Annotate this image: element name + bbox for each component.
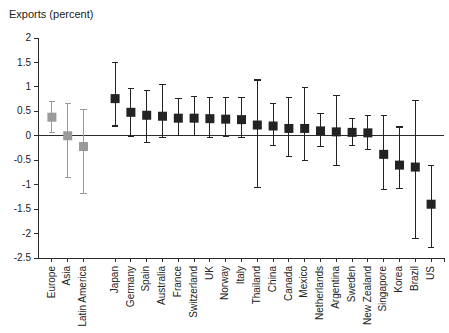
point-marker (174, 114, 183, 123)
data-point-argentina (332, 96, 341, 165)
data-point-latin-america (79, 109, 88, 193)
point-marker (427, 200, 436, 209)
data-point-china (269, 104, 278, 146)
data-point-netherlands (316, 113, 325, 146)
data-point-germany (126, 89, 135, 137)
data-point-sweden (348, 118, 357, 145)
x-axis-tick-label: Spain (140, 266, 151, 292)
point-marker (47, 113, 56, 122)
x-axis-tick-label: Argentina (330, 266, 341, 309)
y-axis-tick-label: 2 (25, 32, 31, 43)
y-axis-tick-label: 0.5 (17, 105, 31, 116)
x-axis-tick-label: Asia (61, 266, 72, 286)
y-axis-tick-label: -1.5 (14, 203, 32, 214)
y-axis-tick-label: -0.5 (14, 154, 32, 165)
point-marker (142, 111, 151, 120)
y-axis-tick-label: 1.5 (17, 57, 31, 68)
point-marker (237, 115, 246, 124)
x-axis-tick-label: Canada (283, 266, 294, 301)
y-axis-tick-label: 0 (25, 130, 31, 141)
x-axis-tick-label: Italy (235, 266, 246, 284)
point-marker (79, 142, 88, 151)
point-marker (126, 108, 135, 117)
point-marker (221, 115, 230, 124)
data-point-italy (237, 98, 246, 138)
x-axis-tick-label: Korea (393, 266, 404, 293)
y-axis-tick-label: 1 (25, 81, 31, 92)
point-marker (284, 124, 293, 133)
x-axis-tick-label: Germany (125, 266, 136, 307)
y-axis-tick-label: -1 (22, 179, 31, 190)
data-point-singapore (379, 115, 388, 189)
data-point-canada (284, 98, 293, 157)
point-marker (300, 124, 309, 133)
x-axis-tick-label: Sweden (346, 266, 357, 302)
x-axis-tick-label: Netherlands (314, 266, 325, 320)
x-axis-tick-label: Thailand (251, 266, 262, 304)
x-axis-tick-label: China (267, 266, 278, 293)
point-marker (395, 161, 404, 170)
point-marker (411, 163, 420, 172)
x-axis-tick-label: Norway (219, 266, 230, 300)
data-point-brazil (411, 101, 420, 239)
x-axis-tick-label: New Zealand (362, 266, 373, 325)
x-axis-tick-label: Singapore (377, 266, 388, 312)
data-point-uk (205, 98, 214, 138)
x-axis-tick-label: Australia (156, 266, 167, 305)
point-marker (348, 128, 357, 137)
data-point-mexico (300, 88, 309, 160)
point-marker (253, 121, 262, 130)
data-point-new-zealand (363, 115, 372, 149)
x-axis-tick-label: UK (204, 266, 215, 280)
plot-area: 21.510.50-0.5-1-1.5-2-2.5EuropeAsiaLatin… (0, 0, 449, 333)
data-point-asia (63, 104, 72, 178)
page-title: Exports (percent) (9, 8, 93, 21)
y-axis-tick-label: -2.5 (14, 252, 32, 263)
data-point-switzerland (190, 97, 199, 136)
point-marker (205, 114, 214, 123)
point-marker (111, 94, 120, 103)
x-axis-tick-label: France (172, 266, 183, 298)
data-point-thailand (253, 80, 262, 188)
x-axis-tick-label: Latin America (77, 266, 88, 327)
x-axis-tick-label: Mexico (298, 266, 309, 298)
point-marker (332, 127, 341, 136)
y-axis-tick-label: -2 (22, 228, 31, 239)
data-point-japan (111, 62, 120, 126)
data-point-spain (142, 91, 151, 143)
point-marker (63, 131, 72, 140)
point-marker (158, 112, 167, 121)
data-point-norway (221, 98, 230, 137)
x-axis-tick-label: Brazil (409, 266, 420, 291)
exports-confidence-interval-chart: Exports (percent) 21.510.50-0.5-1-1.5-2-… (0, 0, 449, 333)
point-marker (316, 126, 325, 135)
x-axis-tick-label: Switzerland (188, 266, 199, 318)
x-axis-tick-label: Europe (46, 266, 57, 299)
x-axis-tick-label: US (425, 266, 436, 280)
point-marker (379, 150, 388, 159)
data-point-australia (158, 85, 167, 138)
point-marker (190, 114, 199, 123)
data-point-us (427, 165, 436, 247)
data-point-france (174, 99, 183, 136)
x-axis-tick-label: Japan (109, 266, 120, 293)
point-marker (269, 122, 278, 131)
point-marker (363, 128, 372, 137)
data-point-europe (47, 102, 56, 133)
